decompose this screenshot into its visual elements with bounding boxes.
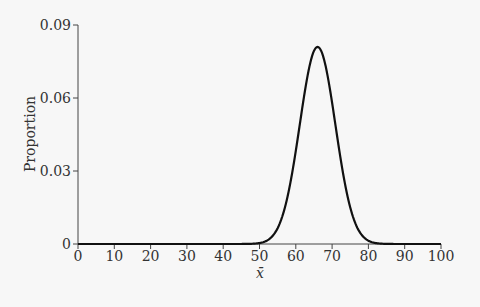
y-tick-label: 0.09 (40, 17, 71, 33)
y-tick-label: 0.06 (40, 90, 71, 106)
x-axis: 0102030405060708090100 (74, 244, 455, 264)
y-tick-label: 0 (62, 236, 71, 252)
y-axis: 00.030.060.09 (40, 17, 78, 252)
x-tick-label: 50 (251, 248, 269, 264)
x-tick-label: 100 (428, 248, 455, 264)
normal-curve-chart: 00.030.060.09 0102030405060708090100 Pro… (0, 0, 480, 307)
x-tick-label: 60 (287, 248, 305, 264)
x-axis-title: x̄ (256, 265, 264, 281)
x-tick-label: 40 (214, 248, 232, 264)
x-tick-label: 70 (323, 248, 341, 264)
x-tick-label: 90 (396, 248, 414, 264)
x-tick-label: 10 (105, 248, 123, 264)
distribution-curve (78, 47, 441, 244)
x-tick-label: 30 (178, 248, 196, 264)
x-tick-label: 80 (359, 248, 377, 264)
y-axis-title: Proportion (22, 96, 38, 172)
x-tick-label: 0 (74, 248, 83, 264)
y-tick-label: 0.03 (40, 163, 71, 179)
x-tick-label: 20 (142, 248, 160, 264)
